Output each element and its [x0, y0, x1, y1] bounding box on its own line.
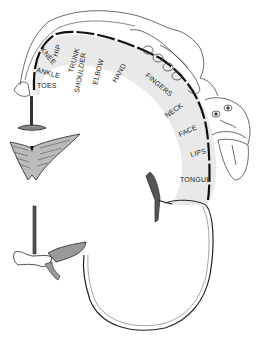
foot-outline	[14, 82, 30, 96]
motor-homunculus-diagram: TOES ANKLE KNEE HIP TRUNK SHOULDER ELBOW…	[0, 0, 265, 341]
label-toes: TOES	[37, 82, 57, 89]
spinal-level-3	[14, 206, 86, 280]
label-tongue: TONGUE	[180, 176, 211, 183]
tongue-shape	[218, 139, 248, 180]
spinal-level-1	[18, 96, 46, 130]
sulcus-branch	[158, 200, 172, 204]
sulcus-shape	[146, 172, 160, 222]
homunculus-illustration: TOES ANKLE KNEE HIP TRUNK SHOULDER ELBOW…	[0, 0, 265, 341]
spinal-level-2	[10, 134, 80, 180]
brain-section-outline-inner	[88, 206, 209, 326]
